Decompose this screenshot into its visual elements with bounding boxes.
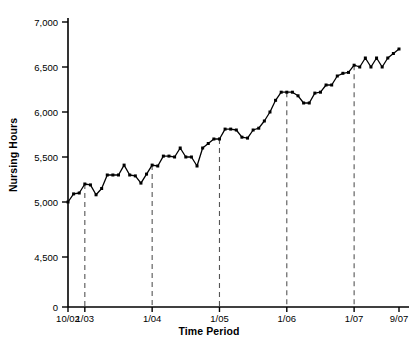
x-tick-label: 1/07 <box>345 313 364 324</box>
y-axis-tick-labels: 04,5005,0005,5006,0006,5007,000 <box>34 17 58 313</box>
data-point-marker <box>268 111 271 114</box>
data-point-marker <box>235 129 238 132</box>
data-point-marker <box>285 91 288 94</box>
data-point-marker <box>392 52 395 55</box>
data-point-marker <box>364 57 367 60</box>
x-tick-label: 1/04 <box>143 313 162 324</box>
data-point-marker <box>78 192 81 195</box>
data-point-marker <box>134 174 137 177</box>
data-point-marker <box>229 128 232 131</box>
data-point-marker <box>325 84 328 87</box>
y-tick-label: 4,500 <box>34 252 58 263</box>
data-point-marker <box>162 155 165 158</box>
data-point-marker <box>145 173 148 176</box>
data-point-marker <box>291 91 294 94</box>
line-chart-plot: 04,5005,0005,5006,0006,5007,000 10/021/0… <box>0 0 418 346</box>
data-point-marker <box>319 91 322 94</box>
x-axis-tick-labels: 10/021/031/041/051/061/079/07 <box>56 313 408 324</box>
x-tick-label: 1/05 <box>210 313 229 324</box>
data-point-marker <box>330 84 333 87</box>
data-point-marker <box>156 165 159 168</box>
data-point-marker <box>123 164 126 167</box>
y-tick-label: 0 <box>53 302 58 313</box>
data-point-marker <box>341 72 344 75</box>
x-tick-label: 9/07 <box>390 313 409 324</box>
data-point-marker <box>386 57 389 60</box>
data-point-marker <box>297 94 300 97</box>
data-point-marker <box>308 102 311 105</box>
data-point-marker <box>89 183 92 186</box>
y-tick-label: 6,000 <box>34 107 58 118</box>
data-point-marker <box>95 193 98 196</box>
data-point-marker <box>212 138 215 141</box>
data-point-marker <box>347 71 350 74</box>
data-point-marker <box>257 127 260 130</box>
data-point-marker <box>117 174 120 177</box>
data-point-marker <box>336 75 339 78</box>
x-axis-title-text: Time Period <box>0 325 418 337</box>
year-boundary-reference-lines <box>85 65 354 307</box>
data-point-marker <box>240 136 243 139</box>
data-point-marker <box>111 174 114 177</box>
data-point-marker <box>72 192 75 195</box>
data-point-marker <box>83 183 86 186</box>
data-point-marker <box>139 182 142 185</box>
data-point-marker <box>179 147 182 150</box>
y-axis-ticks <box>62 22 68 307</box>
data-point-marker <box>274 99 277 102</box>
data-point-marker <box>106 174 109 177</box>
data-point-marker <box>369 66 372 69</box>
data-point-marker <box>313 92 316 95</box>
data-point-marker <box>398 48 401 51</box>
data-point-marker <box>358 66 361 69</box>
y-tick-label: 5,000 <box>34 197 58 208</box>
y-tick-label: 7,000 <box>34 17 58 28</box>
data-point-marker <box>218 138 221 141</box>
data-point-marker <box>252 129 255 132</box>
data-point-marker <box>167 155 170 158</box>
data-point-marker <box>100 187 103 190</box>
data-point-marker <box>246 137 249 140</box>
x-tick-label: 1/03 <box>76 313 95 324</box>
data-point-marker <box>67 201 70 204</box>
data-point-marker <box>201 147 204 150</box>
y-tick-label: 5,500 <box>34 152 58 163</box>
data-point-marker <box>302 102 305 105</box>
data-point-marker <box>207 142 210 145</box>
data-point-marker <box>381 66 384 69</box>
data-point-marker <box>280 91 283 94</box>
data-point-marker <box>128 174 131 177</box>
data-point-marker <box>375 57 378 60</box>
data-point-marker <box>173 156 176 159</box>
chart-container: 04,5005,0005,5006,0006,5007,000 10/021/0… <box>0 0 418 346</box>
data-point-marker <box>190 156 193 159</box>
y-tick-label: 6,500 <box>34 62 58 73</box>
data-point-marker <box>196 165 199 168</box>
x-tick-label: 1/06 <box>278 313 297 324</box>
data-point-marker <box>184 156 187 159</box>
data-point-marker <box>224 128 227 131</box>
data-point-marker <box>263 120 266 123</box>
data-point-marker <box>151 164 154 167</box>
data-point-marker <box>353 64 356 67</box>
